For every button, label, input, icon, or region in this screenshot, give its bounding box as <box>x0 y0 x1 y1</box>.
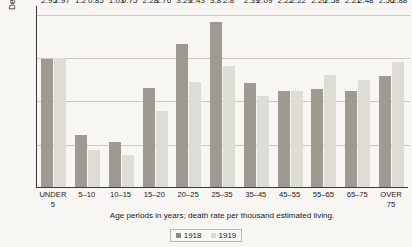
legend: 19181919 <box>0 229 412 242</box>
bar-1919-45–55[interactable]: 2.22 <box>291 91 303 187</box>
bar-group: 2.562.88 <box>374 6 408 187</box>
legend-item-1918[interactable]: 1918 <box>176 231 202 240</box>
bar-value-label: 2.22 <box>291 0 307 5</box>
bar-1919-15–20[interactable]: 1.76 <box>156 111 168 187</box>
y-axis-title-container: Deaths per thousand of estimated living <box>10 2 24 184</box>
bar-value-label: 2.88 <box>392 0 408 5</box>
bar-1918-35–45[interactable]: 2.39 <box>244 83 256 187</box>
x-axis-tick-label: 65–75 <box>340 190 374 209</box>
bar-slot: 2.88 <box>392 6 404 187</box>
bar-value-label: 1.76 <box>156 0 172 5</box>
bar-group: 1.030.75 <box>104 6 138 187</box>
legend-swatch-icon <box>211 233 216 238</box>
legend-swatch-icon <box>176 233 181 238</box>
bar-value-label: 0.85 <box>88 0 104 5</box>
bar-1919-OVER-75[interactable]: 2.88 <box>392 62 404 187</box>
bar-group: 2.281.76 <box>138 6 172 187</box>
x-axis-tick-labels: UNDER 55–1010–1515–2020–2525–3535–4545–5… <box>36 190 408 209</box>
x-axis-tick-label: 45–55 <box>273 190 307 209</box>
bar-1918-UNDER-5[interactable]: 2.95 <box>41 59 53 187</box>
bar-1918-65–75[interactable]: 2.21 <box>345 91 357 187</box>
bar-value-label: 2.09 <box>257 0 273 5</box>
bar-group: 2.952.97 <box>37 6 71 187</box>
bar-slot: 2.22 <box>278 6 290 187</box>
bar-1919-20–25[interactable]: 2.43 <box>189 82 201 187</box>
bar-slot: 0.75 <box>122 6 134 187</box>
bar-slot: 1.2 <box>75 6 87 187</box>
x-axis-tick-label: 5–10 <box>70 190 104 209</box>
x-axis-tick-label: 55–65 <box>307 190 341 209</box>
bar-value-label: 2.58 <box>324 0 340 5</box>
plot-area: 2.952.971.20.851.030.752.281.763.292.433… <box>36 6 408 188</box>
x-axis-tick-label: 35–45 <box>239 190 273 209</box>
bar-1918-15–20[interactable]: 2.28 <box>143 88 155 187</box>
legend-label: 1919 <box>219 231 237 240</box>
x-axis-tick-label: 15–20 <box>137 190 171 209</box>
bar-1918-25–35[interactable]: 3.8 <box>210 22 222 187</box>
y-axis-title: Deaths per thousand of estimated living <box>8 0 17 10</box>
bar-1918-OVER-75[interactable]: 2.56 <box>379 76 391 187</box>
bar-group: 3.292.43 <box>172 6 206 187</box>
bar-slot: 2.58 <box>324 6 336 187</box>
bar-value-label: 0.75 <box>122 0 138 5</box>
bar-value-label: 2.97 <box>54 0 70 5</box>
x-axis-tick-label: OVER 75 <box>374 190 408 209</box>
legend-label: 1918 <box>184 231 202 240</box>
bar-slot: 2.97 <box>54 6 66 187</box>
bar-slot: 1.76 <box>156 6 168 187</box>
bar-slot: 2.09 <box>257 6 269 187</box>
bar-1919-5–10[interactable]: 0.85 <box>88 150 100 187</box>
bar-group: 1.20.85 <box>71 6 105 187</box>
bar-group: 2.222.22 <box>273 6 307 187</box>
bar-slot: 2.26 <box>311 6 323 187</box>
bar-1919-35–45[interactable]: 2.09 <box>257 96 269 187</box>
bar-1918-5–10[interactable]: 1.2 <box>75 135 87 187</box>
bar-1919-10–15[interactable]: 0.75 <box>122 155 134 188</box>
bar-slot: 3.8 <box>210 6 222 187</box>
bar-chart: Deaths per thousand of estimated living … <box>0 0 412 247</box>
bar-slot: 2.48 <box>358 6 370 187</box>
bar-slot: 2.22 <box>291 6 303 187</box>
bar-slot: 3.29 <box>176 6 188 187</box>
bar-1919-UNDER-5[interactable]: 2.97 <box>54 58 66 187</box>
bar-1919-65–75[interactable]: 2.48 <box>358 80 370 187</box>
bar-1919-25–35[interactable]: 2.8 <box>223 66 235 187</box>
bar-slot: 2.8 <box>223 6 235 187</box>
x-axis-title: Age periods in years; death rate per tho… <box>36 211 408 220</box>
x-axis-tick-label: 20–25 <box>171 190 205 209</box>
x-axis-tick-label: UNDER 5 <box>36 190 70 209</box>
bar-slot: 2.43 <box>189 6 201 187</box>
bar-slot: 2.39 <box>244 6 256 187</box>
bar-slot: 2.21 <box>345 6 357 187</box>
bar-series-container: 2.952.971.20.851.030.752.281.763.292.433… <box>37 6 408 187</box>
bar-slot: 2.28 <box>143 6 155 187</box>
bar-group: 2.392.09 <box>239 6 273 187</box>
bar-slot: 2.95 <box>41 6 53 187</box>
bar-group: 2.262.58 <box>307 6 341 187</box>
bar-1919-55–65[interactable]: 2.58 <box>324 75 336 187</box>
bar-value-label: 3.8 <box>210 0 221 5</box>
bar-1918-45–55[interactable]: 2.22 <box>278 91 290 187</box>
bar-slot: 2.56 <box>379 6 391 187</box>
bar-value-label: 2.8 <box>223 0 234 5</box>
legend-box: 19181919 <box>170 229 243 242</box>
bar-value-label: 2.43 <box>189 0 205 5</box>
bar-slot: 0.85 <box>88 6 100 187</box>
bar-1918-10–15[interactable]: 1.03 <box>109 142 121 187</box>
bar-1918-55–65[interactable]: 2.26 <box>311 89 323 187</box>
bar-group: 3.82.8 <box>206 6 240 187</box>
x-axis-tick-label: 10–15 <box>104 190 138 209</box>
bar-1918-20–25[interactable]: 3.29 <box>176 44 188 187</box>
bar-value-label: 2.48 <box>358 0 374 5</box>
bar-slot: 1.03 <box>109 6 121 187</box>
bar-value-label: 1.2 <box>75 0 86 5</box>
x-axis-tick-label: 25–35 <box>205 190 239 209</box>
bar-group: 2.212.48 <box>341 6 375 187</box>
legend-item-1919[interactable]: 1919 <box>211 231 237 240</box>
